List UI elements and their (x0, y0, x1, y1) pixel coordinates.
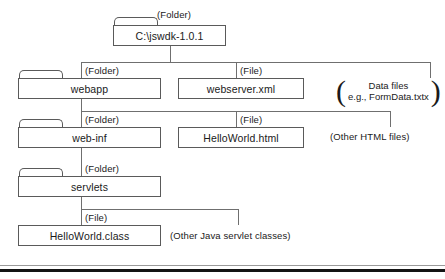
other-servlet-classes-note: (Other Java servlet classes) (170, 230, 291, 241)
node-root-folder[interactable]: C:\jswdk-1.0.1 (113, 25, 226, 46)
paren-open-glyph: ( (336, 78, 346, 104)
connector-root-stem (170, 46, 171, 62)
node-helloworld-class[interactable]: HelloWorld.class (18, 225, 161, 246)
connector-level3-drop-webinf (81, 111, 82, 127)
connector-level2-drop-webapp (81, 62, 82, 78)
webserver-type-tag: (File) (240, 65, 262, 76)
diagram-canvas: (Folder) C:\jswdk-1.0.1 (Folder) webapp … (0, 0, 445, 279)
footer-rule (0, 269, 445, 272)
helloworld-class-type-tag: (File) (85, 212, 107, 223)
root-type-tag: (Folder) (157, 9, 191, 20)
node-servlets-folder[interactable]: servlets (18, 176, 161, 197)
connector-level4-drop-servlets (81, 160, 82, 176)
connector-level2-drop-webserver (236, 62, 237, 78)
node-servlets-label: servlets (71, 181, 108, 193)
data-files-annotation: ( Data files e.g., FormData.txtx ) (336, 78, 441, 104)
data-files-note: Data files e.g., FormData.txtx (346, 80, 431, 102)
data-files-note-line1: Data files (369, 80, 409, 91)
connector-level2-bus (81, 62, 430, 63)
connector-webapp-stem (81, 99, 82, 111)
connector-level5-drop-otherservlets (238, 209, 239, 225)
connector-level5-drop-helloworld-class (81, 209, 82, 225)
node-webinf-folder[interactable]: web-inf (18, 127, 161, 148)
connector-level3-drop-helloworld-html (236, 111, 237, 127)
webinf-type-tag: (Folder) (85, 114, 119, 125)
node-root-label: C:\jswdk-1.0.1 (136, 30, 204, 42)
node-webserver-xml[interactable]: webserver.xml (178, 78, 304, 99)
node-webapp-folder[interactable]: webapp (18, 78, 161, 99)
servlets-type-tag: (Folder) (85, 163, 119, 174)
connector-level5-bus (81, 209, 238, 210)
node-helloworld-class-label: HelloWorld.class (50, 230, 130, 242)
node-helloworld-html-label: HelloWorld.html (203, 132, 278, 144)
footer-hairline (0, 265, 445, 266)
node-webapp-label: webapp (71, 83, 108, 95)
helloworld-html-type-tag: (File) (240, 114, 262, 125)
connector-webinf-stem (81, 148, 82, 160)
other-html-files-note: (Other HTML files) (330, 131, 410, 142)
node-webserver-label: webserver.xml (207, 83, 275, 95)
data-files-note-line2: e.g., FormData.txtx (348, 91, 429, 102)
connector-level3-drop-otherhtml (390, 111, 391, 127)
node-webinf-label: web-inf (72, 132, 107, 144)
node-helloworld-html[interactable]: HelloWorld.html (178, 127, 304, 148)
paren-close-glyph: ) (431, 78, 441, 104)
webapp-type-tag: (Folder) (85, 65, 119, 76)
connector-servlets-stem (81, 197, 82, 209)
